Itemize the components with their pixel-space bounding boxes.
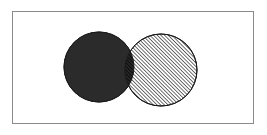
venn-diagram-figure: Venn diagram of two overlapping sets A B… xyxy=(0,0,267,135)
venn-canvas xyxy=(0,0,267,135)
